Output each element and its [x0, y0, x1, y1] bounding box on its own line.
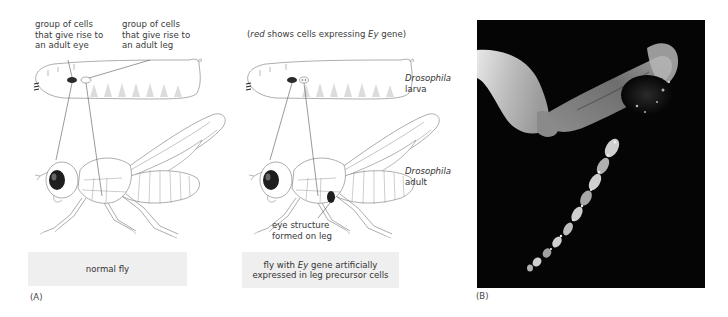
- leg-precursor-expressing-ey: [300, 77, 309, 83]
- adult-eye: [49, 170, 65, 190]
- caption-mutant-fly: fly with Ey gene artificially expressed …: [242, 252, 399, 288]
- label-line: an adult leg: [122, 40, 190, 51]
- caption-line-2: expressed in leg precursor cells: [252, 270, 388, 281]
- genus-name: Drosophila: [405, 73, 451, 83]
- caption-text: normal fly: [86, 264, 129, 275]
- panel-b-label: (B): [476, 291, 488, 301]
- label-line: that give rise to: [35, 30, 103, 41]
- leg-precursor-label: group of cells that give rise to an adul…: [122, 19, 190, 51]
- eye-precursor-label: group of cells that give rise to an adul…: [35, 19, 103, 51]
- adult-species-label: Drosophila adult: [405, 166, 451, 187]
- adult-eye-mutant: [263, 170, 279, 190]
- panel-a-label: (A): [30, 292, 42, 302]
- stage-name: adult: [405, 177, 451, 188]
- label-line: formed on leg: [272, 231, 332, 242]
- legend-gene-name: Ey: [368, 29, 379, 39]
- legend-suffix: gene): [379, 29, 407, 39]
- micrograph-render: [477, 20, 705, 288]
- stage-name: larva: [405, 84, 451, 95]
- legend-middle: shows cells expressing: [265, 29, 368, 39]
- ectopic-eye-on-leg: [327, 191, 335, 203]
- ectopic-eye-label: eye structure formed on leg: [272, 220, 332, 241]
- caption-text: gene artificially: [308, 260, 377, 270]
- label-line: group of cells: [35, 19, 103, 30]
- eye-precursor-cells: [67, 77, 77, 83]
- label-line: that give rise to: [122, 30, 190, 41]
- leg-micrograph: [477, 20, 705, 288]
- larva-species-label: Drosophila larva: [405, 73, 451, 94]
- label-line: group of cells: [122, 19, 190, 30]
- caption-normal-fly: normal fly: [28, 252, 187, 286]
- legend-red-word: red: [250, 29, 264, 39]
- caption-line-1: fly with Ey gene artificially: [264, 260, 378, 271]
- label-line: eye structure: [272, 220, 332, 231]
- eye-precursor-cells-mutant: [287, 77, 297, 83]
- caption-text: fly with: [264, 260, 298, 270]
- color-legend: (red shows cells expressing Ey gene): [247, 29, 406, 40]
- genus-name: Drosophila: [405, 166, 451, 176]
- caption-gene-name: Ey: [298, 260, 309, 270]
- label-line: an adult eye: [35, 40, 103, 51]
